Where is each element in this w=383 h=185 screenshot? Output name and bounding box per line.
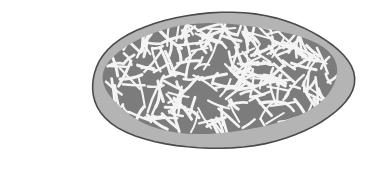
- cheese-shred: [208, 28, 235, 29]
- cheese-shred: [260, 102, 285, 103]
- pizza-svg: [0, 0, 383, 185]
- pizza-illustration: [0, 0, 383, 185]
- cheese-shred: [238, 63, 265, 64]
- cheese-shred: [123, 84, 145, 85]
- cheese-shred: [110, 66, 128, 67]
